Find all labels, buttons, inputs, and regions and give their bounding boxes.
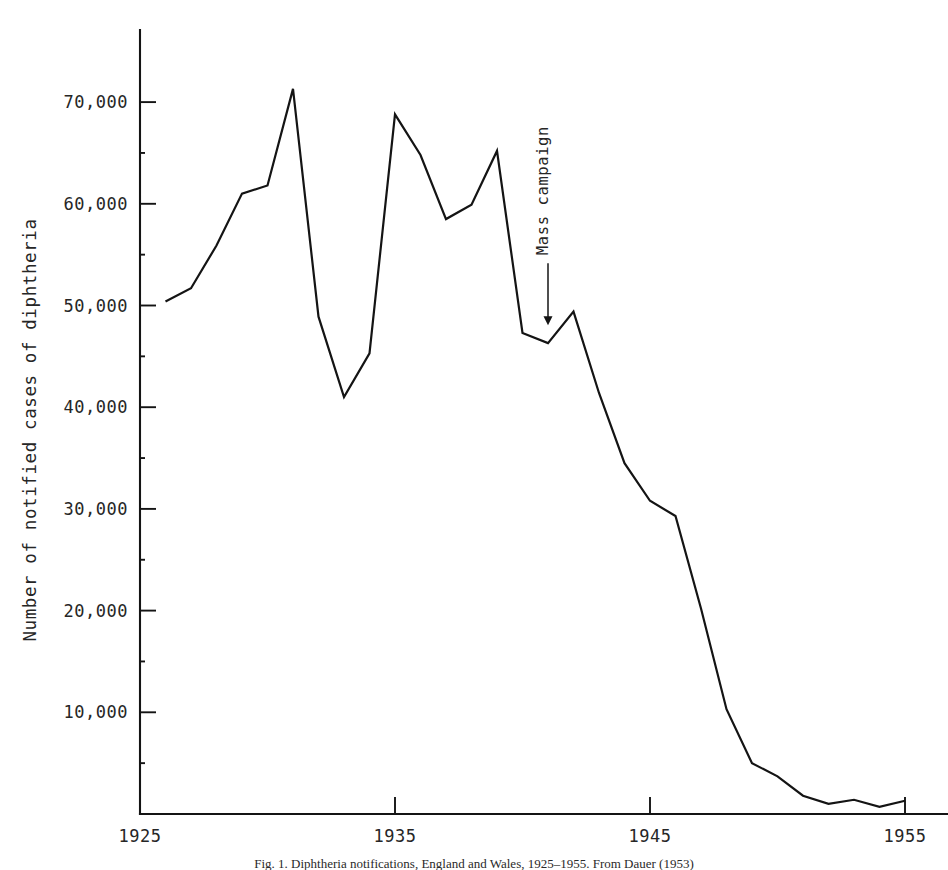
x-tick-label: 1945 xyxy=(629,826,672,846)
y-axis-ticks xyxy=(140,102,156,712)
y-tick-label: 60,000 xyxy=(64,194,128,214)
y-tick-label: 30,000 xyxy=(64,499,128,519)
y-axis-tick-labels: 10,00020,00030,00040,00050,00060,00070,0… xyxy=(64,92,128,722)
x-tick-label: 1925 xyxy=(119,826,162,846)
annotation-arrow-head xyxy=(544,316,553,325)
y-tick-label: 20,000 xyxy=(64,601,128,621)
x-tick-label: 1935 xyxy=(374,826,417,846)
y-tick-label: 10,000 xyxy=(64,702,128,722)
x-axis-ticks xyxy=(140,797,905,814)
y-tick-label: 50,000 xyxy=(64,296,128,316)
y-axis-title: Number of notified cases of diphtheria xyxy=(20,218,40,641)
figure-container: 10,00020,00030,00040,00050,00060,00070,0… xyxy=(0,0,948,870)
y-tick-label: 40,000 xyxy=(64,397,128,417)
x-axis-tick-labels: 1925193519451955 xyxy=(119,826,927,846)
annotation-label: Mass campaign xyxy=(534,126,552,255)
figure-caption: Fig. 1. Diphtheria notifications, Englan… xyxy=(0,856,948,870)
x-tick-label: 1955 xyxy=(884,826,927,846)
diphtheria-line-chart: 10,00020,00030,00040,00050,00060,00070,0… xyxy=(0,0,948,870)
y-tick-label: 70,000 xyxy=(64,92,128,112)
chart-annotations: Mass campaign xyxy=(534,126,553,325)
